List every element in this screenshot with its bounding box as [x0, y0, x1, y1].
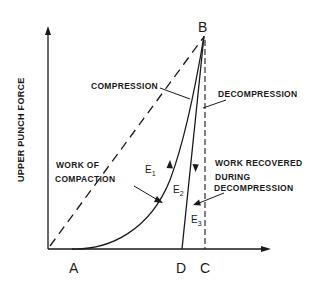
y-axis-arrow-icon [45, 26, 51, 35]
region-label-e2: E2 [173, 184, 184, 197]
work-recovered-label-line3: DECOMPRESSION [214, 183, 293, 193]
region-label-e1: E1 [145, 164, 156, 177]
work-of-compaction-leader-line [134, 186, 156, 199]
x-axis-arrow-icon [261, 246, 271, 252]
work-of-compaction-label-line2: COMPACTION [55, 174, 115, 184]
force-displacement-diagram: UPPER PUNCH FORCE B A D C COMPRESSION DE… [0, 0, 332, 283]
compression-label: COMPRESSION [91, 81, 158, 91]
decompression-label: DECOMPRESSION [218, 89, 297, 99]
point-label-b: B [198, 19, 207, 35]
point-label-c: C [200, 260, 210, 276]
ideal-elastic-dashed-line [50, 38, 203, 246]
work-recovered-label-line2: DURING [215, 172, 250, 182]
compression-direction-arrow-icon [167, 160, 174, 169]
work-recovered-arrow-icon [193, 200, 201, 206]
work-recovered-leader-line [199, 193, 224, 203]
point-label-a: A [69, 260, 79, 276]
compression-curve [72, 36, 204, 249]
y-axis-label: UPPER PUNCH FORCE [16, 77, 26, 182]
work-of-compaction-label-line1: WORK OF [56, 160, 99, 170]
decompression-direction-arrow-icon [193, 164, 199, 172]
y-axis [45, 26, 51, 249]
work-recovered-label-line1: WORK RECOVERED [215, 158, 302, 168]
compression-leader-line [160, 88, 190, 99]
decompression-leader-line [203, 100, 226, 108]
point-label-d: D [176, 260, 186, 276]
region-label-e3: E3 [191, 214, 202, 227]
